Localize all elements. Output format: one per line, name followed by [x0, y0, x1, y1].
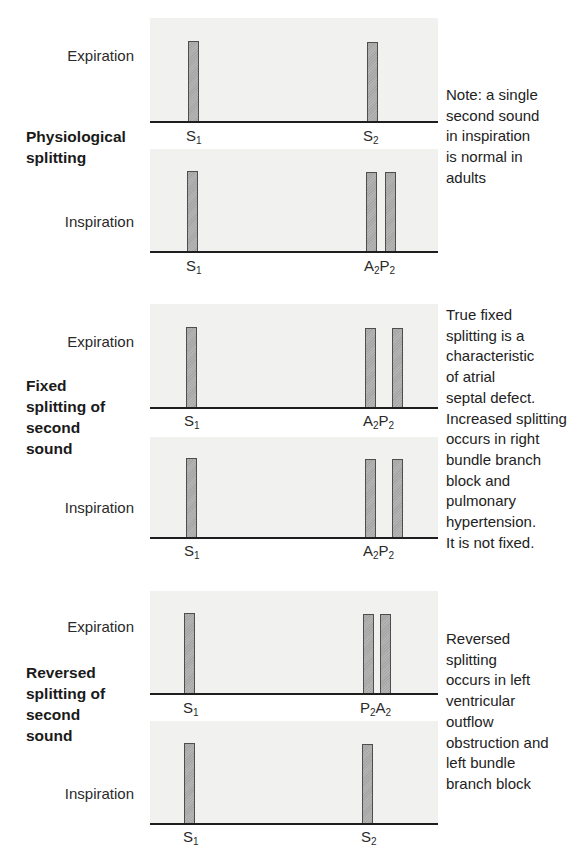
- label-a2p2: A2P2: [363, 543, 394, 559]
- section-note: True fixed splitting is a characteristic…: [446, 305, 586, 553]
- baseline: [150, 251, 438, 253]
- note-line: of atrial: [446, 367, 586, 388]
- note-line: adults: [446, 168, 586, 189]
- bar-p2: [392, 328, 403, 408]
- label-s1: S1: [186, 258, 202, 274]
- bar-s1: [184, 743, 195, 824]
- label-s1: S1: [186, 128, 202, 144]
- note-line: branch block: [446, 774, 586, 795]
- note-line: splitting: [446, 650, 586, 671]
- title-line: Physiological: [26, 126, 146, 147]
- section-title: Reversed splitting of second sound: [26, 662, 146, 746]
- note-line: occurs in left: [446, 670, 586, 691]
- title-line: splitting of: [26, 396, 146, 417]
- bar-a2: [365, 328, 376, 408]
- label-a2p2: A2P2: [364, 258, 395, 274]
- note-line: True fixed: [446, 305, 586, 326]
- bar-p2: [392, 459, 403, 538]
- phase-label-expiration: Expiration: [14, 334, 134, 350]
- phase-label-inspiration: Inspiration: [14, 786, 134, 802]
- bar-a2: [365, 459, 376, 538]
- title-line: Fixed: [26, 375, 146, 396]
- label-a2p2: A2P2: [363, 413, 394, 429]
- note-line: septal defect.: [446, 388, 586, 409]
- note-line: block and: [446, 471, 586, 492]
- bar-s1: [188, 41, 199, 122]
- label-s1: S1: [183, 829, 199, 845]
- note-line: ventricular: [446, 691, 586, 712]
- note-line: is normal in: [446, 147, 586, 168]
- label-s2: S2: [363, 128, 379, 144]
- section-title: Physiological splitting: [26, 126, 146, 168]
- note-line: second sound: [446, 106, 586, 127]
- bar-p2: [363, 614, 374, 694]
- bar-p2: [385, 172, 396, 252]
- note-line: Reversed: [446, 629, 586, 650]
- label-p2a2: P2A2: [360, 700, 391, 716]
- label-s1: S1: [184, 413, 200, 429]
- note-line: bundle branch: [446, 450, 586, 471]
- note-line: It is not fixed.: [446, 533, 586, 554]
- title-line: sound: [26, 725, 146, 746]
- note-line: outflow: [446, 712, 586, 733]
- section-title: Fixed splitting of second sound: [26, 375, 146, 459]
- bar-a2: [366, 172, 377, 252]
- bar-s1: [186, 327, 197, 408]
- note-line: pulmonary: [446, 491, 586, 512]
- baseline: [150, 121, 438, 123]
- bar-s2: [362, 744, 373, 824]
- note-line: Note: a single: [446, 85, 586, 106]
- note-line: Increased splitting: [446, 409, 586, 430]
- label-s1: S1: [183, 700, 199, 716]
- title-line: splitting of: [26, 683, 146, 704]
- baseline: [150, 537, 438, 539]
- bar-s1: [184, 613, 195, 694]
- note-line: hypertension.: [446, 512, 586, 533]
- note-line: in inspiration: [446, 126, 586, 147]
- phase-label-expiration: Expiration: [14, 48, 134, 64]
- title-line: splitting: [26, 147, 146, 168]
- phase-label-inspiration: Inspiration: [14, 500, 134, 516]
- note-line: obstruction and: [446, 733, 586, 754]
- title-line: Reversed: [26, 662, 146, 683]
- baseline: [150, 693, 438, 695]
- note-line: splitting is a: [446, 326, 586, 347]
- note-line: left bundle: [446, 753, 586, 774]
- baseline: [150, 407, 438, 409]
- bar-s1: [186, 458, 197, 538]
- section-note: Note: a single second sound in inspirati…: [446, 85, 586, 189]
- label-s2: S2: [361, 829, 377, 845]
- bar-s1: [187, 171, 198, 252]
- label-s1: S1: [184, 543, 200, 559]
- note-line: characteristic: [446, 346, 586, 367]
- baseline: [150, 823, 438, 825]
- title-line: second: [26, 704, 146, 725]
- bar-a2: [380, 614, 391, 694]
- bar-s2: [367, 42, 378, 122]
- phase-label-expiration: Expiration: [14, 619, 134, 635]
- phase-label-inspiration: Inspiration: [14, 214, 134, 230]
- section-note: Reversed splitting occurs in left ventri…: [446, 629, 586, 795]
- title-line: sound: [26, 438, 146, 459]
- note-line: occurs in right: [446, 429, 586, 450]
- title-line: second: [26, 417, 146, 438]
